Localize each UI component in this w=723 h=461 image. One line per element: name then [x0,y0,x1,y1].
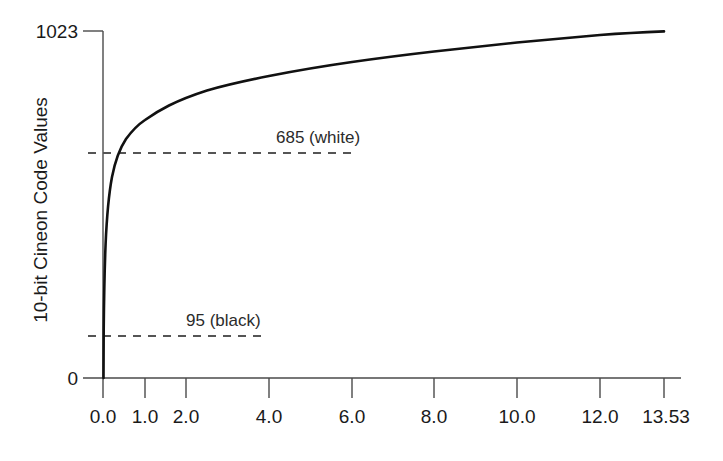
y-axis-max-label: 1023 [36,21,78,42]
x-axis-label-12: 12.0 [582,406,619,427]
y-axis-min-label: 0 [67,368,78,389]
x-axis-label-1: 1.0 [132,406,158,427]
x-axis-label-2: 2.0 [173,406,199,427]
chart-background [0,0,723,461]
x-axis-label-6: 6.0 [339,406,365,427]
chart-svg: 1023 0 10-bit Cineon Code Values 0.0 1.0… [0,0,723,461]
cineon-curve-chart: 1023 0 10-bit Cineon Code Values 0.0 1.0… [0,0,723,461]
annotation-white-label: 685 (white) [276,128,360,147]
x-axis-label-1353: 13.53 [642,406,690,427]
x-axis-label-4: 4.0 [256,406,282,427]
x-axis-label-10: 10.0 [499,406,536,427]
y-axis-title: 10-bit Cineon Code Values [30,97,51,323]
x-axis-label-8: 8.0 [421,406,447,427]
x-axis-label-0: 0.0 [90,406,116,427]
annotation-black-label: 95 (black) [186,311,261,330]
